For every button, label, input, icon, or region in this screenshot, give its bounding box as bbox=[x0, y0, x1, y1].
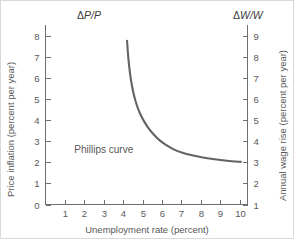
left-tick-label: 8 bbox=[34, 31, 39, 42]
left-axis-symbol: ΔP/P bbox=[77, 9, 101, 21]
bottom-tick-label: 1 bbox=[63, 208, 68, 219]
right-tick-label: 2 bbox=[254, 178, 259, 189]
left-tick-label: 4 bbox=[34, 115, 39, 126]
left-axis-ticks: 012345678 bbox=[34, 31, 50, 211]
right-axis-symbol: ΔW/W bbox=[233, 9, 264, 21]
bottom-axis-ticks: 12345678910 bbox=[63, 200, 246, 219]
right-tick-label: 5 bbox=[254, 115, 259, 126]
left-tick-label: 7 bbox=[34, 52, 39, 63]
left-axis-title: Price inflation (percent per year) bbox=[5, 62, 16, 197]
chart-annotations: Phillips curve bbox=[74, 144, 133, 155]
bottom-tick-label: 3 bbox=[102, 208, 107, 219]
bottom-tick-label: 10 bbox=[235, 208, 246, 219]
right-tick-label: 9 bbox=[254, 31, 259, 42]
left-tick-label: 6 bbox=[34, 73, 39, 84]
right-axis-title: Annual wage rise (percent per year) bbox=[277, 50, 288, 201]
right-axis-ticks: 123456789 bbox=[243, 31, 259, 211]
left-tick-label: 2 bbox=[34, 157, 39, 168]
bottom-axis-title: Unemployment rate (percent) bbox=[85, 224, 209, 235]
bottom-tick-label: 7 bbox=[179, 208, 184, 219]
right-tick-label: 8 bbox=[254, 52, 259, 63]
phillips-curve-figure: ΔP/P ΔW/W 012345678 123456789 1234567891… bbox=[0, 0, 294, 239]
bottom-tick-label: 4 bbox=[121, 208, 126, 219]
bottom-tick-label: 6 bbox=[160, 208, 165, 219]
right-tick-label: 6 bbox=[254, 94, 259, 105]
phillips-curve-line bbox=[127, 41, 241, 162]
bottom-tick-label: 2 bbox=[82, 208, 87, 219]
bottom-tick-label: 5 bbox=[141, 208, 146, 219]
left-tick-label: 0 bbox=[34, 200, 39, 211]
right-tick-label: 7 bbox=[254, 73, 259, 84]
left-tick-label: 3 bbox=[34, 136, 39, 147]
right-tick-label: 4 bbox=[254, 136, 259, 147]
left-tick-label: 5 bbox=[34, 94, 39, 105]
bottom-tick-label: 9 bbox=[218, 208, 223, 219]
left-tick-label: 1 bbox=[34, 178, 39, 189]
bottom-tick-label: 8 bbox=[199, 208, 204, 219]
right-tick-label: 1 bbox=[254, 200, 259, 211]
right-tick-label: 3 bbox=[254, 157, 259, 168]
chart-canvas: ΔP/P ΔW/W 012345678 123456789 1234567891… bbox=[1, 1, 294, 239]
curve-label: Phillips curve bbox=[74, 144, 133, 155]
